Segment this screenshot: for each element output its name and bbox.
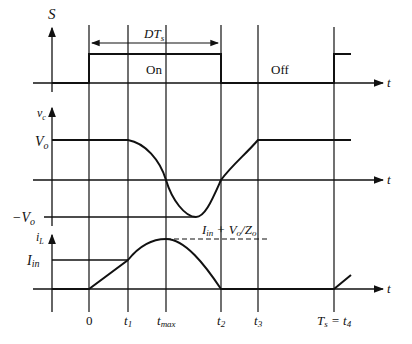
iin-label: Iin: [26, 253, 39, 269]
tick-t2: t2: [217, 313, 226, 329]
il-time-label: t: [387, 281, 391, 296]
tick-0: 0: [86, 313, 93, 328]
tick-tmax: tmax: [157, 313, 176, 329]
duty-label: DTs: [143, 26, 165, 43]
vo-label: Vo: [35, 134, 49, 151]
tick-t1: t1: [124, 313, 132, 329]
tick-t3: t3: [254, 313, 263, 329]
il-waveform: [52, 239, 351, 289]
vc-axis-label: vc: [37, 106, 46, 122]
neg-vo-label: −Vo: [12, 210, 35, 227]
peak-current-label: Iin + Vo/Zo: [201, 222, 257, 238]
on-label: On: [146, 62, 162, 77]
time-gridlines: [89, 25, 334, 312]
time-tick-labels: 0 t1 tmax t2 t3 Ts = t4: [86, 313, 352, 329]
tick-ts-t4: Ts = t4: [317, 313, 352, 329]
timing-diagram: S t DTs On Off vc t Vo −Vo iL t Iin Iin …: [0, 0, 412, 344]
off-label: Off: [271, 62, 289, 77]
il-axis-label: iL: [36, 230, 44, 246]
switch-signal-panel: S t DTs On Off: [33, 6, 391, 92]
vc-time-label: t: [387, 172, 391, 187]
switch-waveform: [52, 54, 351, 83]
s-time-label: t: [387, 75, 391, 90]
s-axis-label: S: [48, 6, 56, 22]
vc-waveform: [52, 140, 351, 217]
inductor-current-panel: iL t Iin Iin + Vo/Zo: [26, 222, 391, 312]
